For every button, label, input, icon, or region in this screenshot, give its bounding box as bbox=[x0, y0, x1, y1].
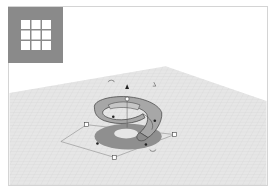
corner-handle-right[interactable] bbox=[173, 133, 177, 137]
mid-handle-shape-left[interactable] bbox=[112, 115, 115, 118]
mid-handle-left[interactable] bbox=[96, 142, 99, 145]
corner-handle-left[interactable] bbox=[85, 123, 89, 127]
corner-handle-bottom[interactable] bbox=[112, 155, 116, 159]
grid-3x3-icon bbox=[8, 7, 63, 63]
mid-handle-bottom[interactable] bbox=[145, 143, 148, 146]
top-handle[interactable] bbox=[125, 97, 129, 101]
grid-view-button[interactable] bbox=[8, 7, 63, 63]
mid-handle-shape-right[interactable] bbox=[154, 119, 157, 122]
workplane-grid bbox=[9, 60, 266, 185]
